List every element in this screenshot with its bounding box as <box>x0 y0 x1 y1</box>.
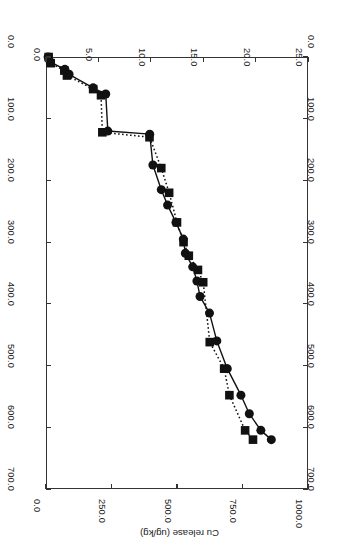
marker-circle <box>163 201 172 210</box>
tick-sulfate <box>45 57 46 62</box>
tick-label-time: 600.0 <box>6 405 16 429</box>
marker-circle <box>89 83 98 92</box>
tick-cu-release <box>176 484 177 489</box>
tick-label-time: 700.0 <box>6 467 16 491</box>
tick-sulfate <box>307 57 308 62</box>
tick-sulfate <box>98 57 99 62</box>
tick-label-cu-release: 500.0 <box>163 499 173 523</box>
tick-label-time: 300.0 <box>6 220 16 244</box>
marker-circle <box>267 435 276 444</box>
marker-square <box>157 164 166 173</box>
tick-label-time: 400.0 <box>6 282 16 306</box>
series-sulfate <box>44 53 276 445</box>
tick-label-time: 500.0 <box>6 344 16 368</box>
marker-square <box>241 426 250 435</box>
tick-sulfate <box>150 57 151 62</box>
tick-label-sulfate: 20.0 <box>242 48 252 67</box>
tick-cu-release <box>242 484 243 489</box>
marker-circle <box>245 409 254 418</box>
series-line <box>49 57 253 440</box>
tick-label-sulfate: 15.0 <box>189 48 199 67</box>
marker-square <box>225 391 234 400</box>
tick-time <box>46 56 51 57</box>
tick-label-sulfate: 5.0 <box>84 48 94 61</box>
tick-label-time: 100.0 <box>306 97 316 121</box>
tick-cu-release <box>45 484 46 489</box>
tick-time <box>46 365 51 366</box>
series-line <box>48 57 271 440</box>
marker-square <box>165 188 174 197</box>
tick-label-time: 100.0 <box>6 97 16 121</box>
plot-area: 0.0100.0200.0300.0400.0500.0600.0700.0 0… <box>46 57 308 489</box>
tick-label-time: 300.0 <box>306 220 316 244</box>
tick-label-time: 200.0 <box>306 158 316 182</box>
tick-cu-release <box>111 484 112 489</box>
marker-circle <box>171 218 180 227</box>
tick-label-time: 600.0 <box>306 405 316 429</box>
tick-label-cu-release: 750.0 <box>229 499 239 523</box>
tick-label-sulfate: 25.0 <box>294 48 304 67</box>
marker-circle <box>181 249 190 258</box>
tick-label-cu-release: 1000.0 <box>294 499 304 528</box>
marker-circle <box>145 130 154 139</box>
marker-circle <box>256 426 265 435</box>
tick-time <box>46 180 51 181</box>
marker-circle <box>205 309 214 318</box>
marker-circle <box>103 127 112 136</box>
marker-circle <box>179 235 188 244</box>
tick-cu-release <box>307 484 308 489</box>
series-layer <box>46 57 308 489</box>
chart-figure: 0.0100.0200.0300.0400.0500.0600.0700.0 0… <box>0 0 354 547</box>
marker-square <box>249 435 258 444</box>
tick-label-sulfate: 0.0 <box>32 48 42 61</box>
marker-circle <box>101 90 110 99</box>
axis-title-cu-release: Cu release (ug/kg) <box>140 528 219 539</box>
tick-label-sulfate: 10.0 <box>137 48 147 67</box>
tick-label-time: 500.0 <box>306 344 316 368</box>
tick-time <box>46 488 51 489</box>
marker-circle <box>46 57 55 66</box>
tick-label-time: 400.0 <box>306 282 316 306</box>
tick-label-time: 0.0 <box>306 35 316 48</box>
tick-label-time: 0.0 <box>6 35 16 48</box>
tick-sulfate <box>203 57 204 62</box>
tick-time <box>46 427 51 428</box>
tick-label-cu-release: 250.0 <box>98 499 108 523</box>
marker-circle <box>223 364 232 373</box>
series-cu-release <box>44 53 257 444</box>
marker-circle <box>236 391 245 400</box>
marker-circle <box>196 292 205 301</box>
marker-circle <box>188 262 197 271</box>
tick-label-time: 200.0 <box>6 158 16 182</box>
tick-time <box>46 303 51 304</box>
tick-label-cu-release: 0.0 <box>32 499 42 512</box>
marker-circle <box>192 277 201 286</box>
tick-sulfate <box>255 57 256 62</box>
tick-time <box>46 242 51 243</box>
tick-time <box>46 118 51 119</box>
marker-circle <box>148 161 157 170</box>
marker-circle <box>212 336 221 345</box>
marker-circle <box>65 70 74 79</box>
marker-circle <box>157 185 166 194</box>
